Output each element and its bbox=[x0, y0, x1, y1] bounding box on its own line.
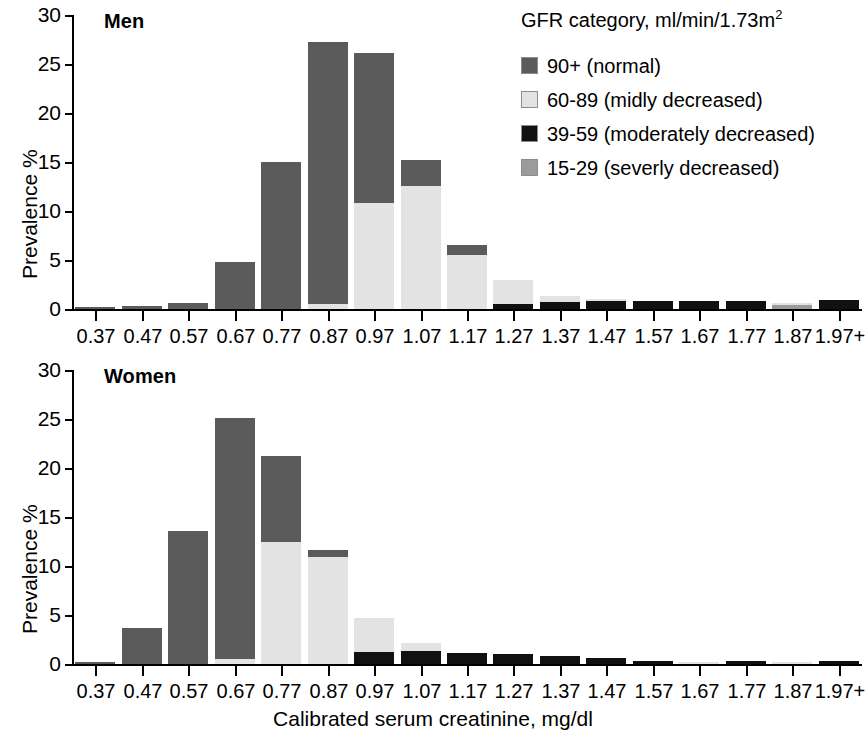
bar-segment bbox=[586, 658, 626, 664]
y-tick bbox=[65, 64, 72, 66]
bar-segment bbox=[772, 305, 812, 309]
x-tick bbox=[839, 311, 841, 321]
panel-women: Women Prevalence % 051015202530 0.370.47… bbox=[0, 355, 866, 700]
bar-segment bbox=[540, 656, 580, 664]
x-tick bbox=[281, 666, 283, 676]
bar-segment bbox=[819, 661, 859, 664]
x-tick-label: 1.97+ bbox=[810, 326, 866, 346]
bar-stack bbox=[122, 370, 162, 664]
x-tick bbox=[467, 311, 469, 321]
bar-segment bbox=[493, 304, 533, 309]
bar-stack bbox=[261, 370, 301, 664]
bar-segment bbox=[819, 300, 859, 309]
legend-title: GFR category, ml/min/1.73m2 bbox=[521, 8, 861, 31]
bar-segment bbox=[726, 661, 766, 664]
bar-segment bbox=[679, 662, 719, 664]
y-tick bbox=[65, 419, 72, 421]
bar-segment bbox=[354, 618, 394, 652]
legend-item-90-plus[interactable]: 90+ (normal) bbox=[521, 49, 861, 83]
bar-stack bbox=[679, 370, 719, 664]
y-tick-label: 30 bbox=[17, 4, 61, 25]
y-tick bbox=[65, 664, 72, 666]
bar-stack bbox=[819, 370, 859, 664]
bar-segment bbox=[401, 643, 441, 651]
y-tick bbox=[65, 468, 72, 470]
x-tick bbox=[699, 666, 701, 676]
legend-item-39-59[interactable]: 39-59 (moderately decreased) bbox=[521, 117, 861, 151]
bar-segment bbox=[75, 662, 115, 664]
legend-label-90-plus: 90+ (normal) bbox=[547, 56, 661, 76]
bar-segment bbox=[354, 203, 394, 309]
y-tick bbox=[65, 162, 72, 164]
y-tick-label: 30 bbox=[17, 359, 61, 380]
x-tick bbox=[699, 311, 701, 321]
bar-segment bbox=[586, 301, 626, 309]
legend-item-60-89[interactable]: 60-89 (midly decreased) bbox=[521, 83, 861, 117]
x-tick bbox=[188, 311, 190, 321]
x-tick bbox=[328, 666, 330, 676]
bar-stack bbox=[75, 370, 115, 664]
bar-stack bbox=[726, 370, 766, 664]
y-tick bbox=[65, 370, 72, 372]
y-tick-label: 25 bbox=[17, 408, 61, 429]
legend-label-39-59: 39-59 (moderately decreased) bbox=[547, 124, 815, 144]
y-tick bbox=[65, 15, 72, 17]
x-tick bbox=[606, 311, 608, 321]
y-tick-label: 5 bbox=[17, 604, 61, 625]
bar-segment bbox=[261, 162, 301, 309]
bar-stack bbox=[493, 370, 533, 664]
bar-segment bbox=[633, 301, 673, 309]
bar-segment bbox=[540, 296, 580, 302]
bar-segment bbox=[540, 302, 580, 309]
y-tick bbox=[65, 517, 72, 519]
y-tick-label: 0 bbox=[17, 298, 61, 319]
x-tick bbox=[513, 311, 515, 321]
bar-segment bbox=[772, 662, 812, 664]
y-tick bbox=[65, 566, 72, 568]
legend-item-15-29[interactable]: 15-29 (severly decreased) bbox=[521, 151, 861, 185]
bar-stack bbox=[772, 370, 812, 664]
x-tick bbox=[188, 666, 190, 676]
bar-stack bbox=[354, 370, 394, 664]
x-tick bbox=[235, 311, 237, 321]
x-tick bbox=[374, 311, 376, 321]
bar-segment bbox=[308, 550, 348, 557]
bar-stack bbox=[401, 370, 441, 664]
legend-swatch-39-59 bbox=[521, 125, 538, 142]
x-tick bbox=[374, 666, 376, 676]
legend-title-text: GFR category, ml/min/1.73m bbox=[521, 9, 775, 31]
x-tick bbox=[235, 666, 237, 676]
bar-segment bbox=[261, 542, 301, 665]
bar-stack bbox=[447, 15, 487, 309]
bar-stack bbox=[447, 370, 487, 664]
legend-label-60-89: 60-89 (midly decreased) bbox=[547, 90, 763, 110]
legend-title-superscript: 2 bbox=[775, 7, 782, 22]
x-tick bbox=[560, 666, 562, 676]
bar-segment bbox=[308, 557, 348, 664]
bar-segment bbox=[215, 262, 255, 309]
x-axis-label: Calibrated serum creatinine, mg/dl bbox=[0, 707, 866, 731]
bar-stack bbox=[168, 370, 208, 664]
bar-segment bbox=[75, 307, 115, 309]
y-tick-label: 20 bbox=[17, 457, 61, 478]
bar-stack bbox=[215, 370, 255, 664]
y-tick bbox=[65, 113, 72, 115]
bar-segment bbox=[215, 659, 255, 664]
bar-segment bbox=[122, 306, 162, 309]
bar-segment bbox=[447, 245, 487, 255]
bar-stack bbox=[633, 370, 673, 664]
y-tick-label: 5 bbox=[17, 249, 61, 270]
y-tick-label: 0 bbox=[17, 653, 61, 674]
bar-segment bbox=[215, 418, 255, 659]
legend-swatch-90-plus bbox=[521, 57, 538, 74]
y-tick bbox=[65, 309, 72, 311]
y-tick-label: 25 bbox=[17, 53, 61, 74]
x-tick bbox=[746, 311, 748, 321]
bar-segment bbox=[401, 160, 441, 185]
x-tick bbox=[421, 311, 423, 321]
bar-segment bbox=[679, 301, 719, 309]
bar-segment bbox=[122, 628, 162, 664]
bar-segment bbox=[447, 255, 487, 309]
bar-segment bbox=[401, 651, 441, 664]
x-tick bbox=[746, 666, 748, 676]
